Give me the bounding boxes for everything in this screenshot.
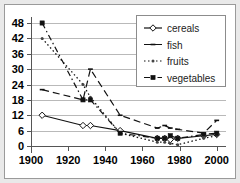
y-tick-label: 6 xyxy=(18,125,24,137)
y-tick-label: 36 xyxy=(12,48,24,60)
data-point-vegetables xyxy=(118,131,122,135)
legend-marker-fruits xyxy=(152,60,155,63)
chart-frame: 0612182430364248 19001920194019601980200… xyxy=(4,4,236,179)
y-tick-label: 30 xyxy=(12,63,24,75)
legend-label-vegetables: vegetables xyxy=(167,73,215,84)
x-tick-label: 2000 xyxy=(204,154,228,166)
legend-label-fruits: fruits xyxy=(167,56,189,67)
legend-label-cereals: cereals xyxy=(167,23,199,34)
x-tick-label: 1980 xyxy=(167,154,191,166)
y-tick-label: 24 xyxy=(12,79,25,91)
y-tick-label: 12 xyxy=(12,109,24,121)
data-point-vegetables xyxy=(168,134,172,138)
data-point-fruits xyxy=(156,141,159,144)
data-point-vegetables xyxy=(88,98,92,102)
data-point-cereals xyxy=(80,122,86,128)
legend-marker-vegetables xyxy=(151,75,155,79)
data-point-fruits xyxy=(163,141,166,144)
data-point-fruits xyxy=(82,83,85,86)
series-cereals xyxy=(39,112,220,143)
y-tick-label: 0 xyxy=(18,140,24,152)
data-point-vegetables xyxy=(81,98,85,102)
data-point-fruits xyxy=(41,37,44,40)
line-chart: 0612182430364248 19001920194019601980200… xyxy=(5,5,235,178)
data-point-vegetables xyxy=(215,131,219,135)
chart-legend: cerealsfishfruitsvegetables xyxy=(137,16,226,87)
data-point-vegetables xyxy=(163,136,167,140)
data-point-vegetables xyxy=(155,136,159,140)
data-point-fruits xyxy=(202,137,205,140)
data-point-fruits xyxy=(169,142,172,145)
data-point-fruits xyxy=(176,143,179,146)
x-tick-label: 1900 xyxy=(19,154,43,166)
data-point-cereals xyxy=(87,122,93,128)
x-tick-labels-group: 190019201940196019802000 xyxy=(19,154,229,166)
chart-figure: 0612182430364248 19001920194019601980200… xyxy=(0,0,240,183)
x-tick-label: 1920 xyxy=(56,154,80,166)
x-tick-label: 1960 xyxy=(130,154,154,166)
data-point-vegetables xyxy=(202,132,206,136)
y-tick-labels-group: 0612182430364248 xyxy=(12,17,25,152)
x-tick-label: 1940 xyxy=(93,154,117,166)
y-tick-label: 48 xyxy=(12,17,24,29)
data-point-cereals xyxy=(39,112,45,118)
data-point-vegetables xyxy=(176,136,180,140)
y-tick-label: 42 xyxy=(12,32,24,44)
data-point-vegetables xyxy=(40,21,44,25)
y-tick-label: 18 xyxy=(12,94,24,106)
legend-label-fish: fish xyxy=(167,40,183,51)
